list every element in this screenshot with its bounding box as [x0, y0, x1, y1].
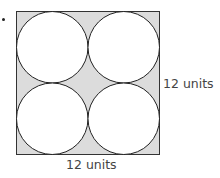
circle-bottom-right — [88, 83, 160, 155]
side-length-label-right: 12 units — [163, 76, 214, 91]
circle-top-right — [88, 12, 160, 84]
side-length-label-bottom: 12 units — [66, 157, 117, 172]
circle-bottom-left — [17, 83, 89, 155]
circle-top-left — [17, 12, 89, 84]
